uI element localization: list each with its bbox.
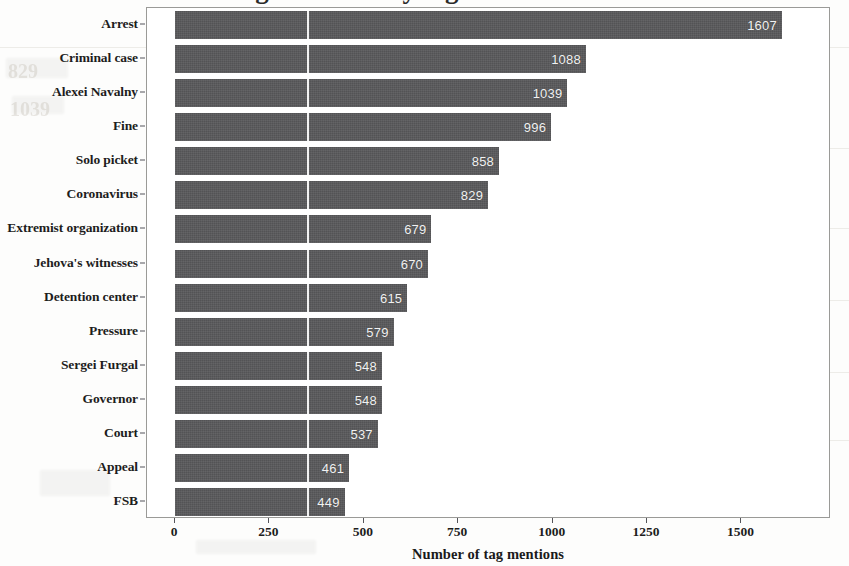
bar: 579 bbox=[175, 318, 394, 346]
y-axis-category-label: Sergei Furgal bbox=[61, 357, 138, 373]
y-axis-category-label: Fine bbox=[113, 118, 138, 134]
x-axis-tick bbox=[740, 518, 741, 523]
bar: 829 bbox=[175, 181, 488, 209]
y-axis-category-label: FSB bbox=[114, 493, 138, 509]
bar-value-label: 996 bbox=[524, 120, 546, 135]
y-axis-tick bbox=[140, 92, 145, 93]
y-axis-category-label: Court bbox=[104, 425, 138, 441]
bar-value-label: 579 bbox=[366, 324, 388, 339]
y-axis-category-label: Criminal case bbox=[59, 50, 138, 66]
bar: 615 bbox=[175, 284, 407, 312]
y-axis-tick bbox=[140, 194, 145, 195]
x-axis-tick-label: 500 bbox=[353, 524, 373, 540]
y-axis-tick bbox=[140, 228, 145, 229]
bar-value-label: 548 bbox=[355, 358, 377, 373]
bar-value-label: 858 bbox=[472, 154, 494, 169]
y-axis-tick bbox=[140, 160, 145, 161]
bar: 449 bbox=[175, 488, 345, 516]
bar-value-label: 449 bbox=[317, 494, 339, 509]
bar: 461 bbox=[175, 454, 349, 482]
x-axis-title: Number of tag mentions bbox=[146, 546, 830, 563]
figure-title-text: Number of tag mentions by tag bbox=[0, 0, 560, 5]
bar-value-label: 615 bbox=[380, 290, 402, 305]
bar-value-label: 548 bbox=[355, 392, 377, 407]
x-axis-tick-label: 1250 bbox=[633, 524, 660, 540]
y-axis-tick bbox=[140, 398, 145, 399]
bar-value-label: 1088 bbox=[551, 52, 581, 67]
bars-layer: 1607108810399968588296796706155795485485… bbox=[147, 8, 829, 517]
bar: 537 bbox=[175, 420, 378, 448]
y-axis-tick bbox=[140, 500, 145, 501]
y-axis-tick bbox=[140, 58, 145, 59]
bar: 1607 bbox=[175, 11, 782, 39]
x-axis-tick bbox=[174, 518, 175, 523]
bar-value-label: 461 bbox=[322, 460, 344, 475]
y-axis-tick bbox=[140, 262, 145, 263]
bar-value-label: 537 bbox=[350, 426, 372, 441]
y-axis-tick bbox=[140, 330, 145, 331]
y-axis-labels: ArrestCriminal caseAlexei NavalnyFineSol… bbox=[0, 7, 138, 518]
bar: 548 bbox=[175, 386, 382, 414]
y-axis-category-label: Appeal bbox=[97, 459, 138, 475]
y-axis-category-label: Alexei Navalny bbox=[52, 84, 138, 100]
x-axis-tick-label: 1000 bbox=[538, 524, 565, 540]
x-axis-tick-label: 750 bbox=[447, 524, 467, 540]
bar-value-label: 1039 bbox=[533, 86, 563, 101]
bar: 670 bbox=[175, 250, 428, 278]
x-axis-tick bbox=[646, 518, 647, 523]
y-axis-category-label: Pressure bbox=[89, 323, 138, 339]
bar: 996 bbox=[175, 113, 551, 141]
x-axis-tick-label: 250 bbox=[258, 524, 278, 540]
y-axis-tick bbox=[140, 466, 145, 467]
x-axis-tick bbox=[268, 518, 269, 523]
x-axis-tick-labels: 0250500750100012501500 bbox=[146, 524, 830, 544]
y-axis-tick bbox=[140, 126, 145, 127]
y-axis-category-label: Jehova's witnesses bbox=[34, 255, 138, 271]
y-axis-category-label: Governor bbox=[83, 391, 138, 407]
y-axis-category-label: Coronavirus bbox=[67, 186, 138, 202]
bar: 548 bbox=[175, 352, 382, 380]
x-axis-tick-label: 0 bbox=[171, 524, 178, 540]
y-axis-tick bbox=[140, 364, 145, 365]
bar: 1088 bbox=[175, 45, 586, 73]
y-axis-category-label: Extremist organization bbox=[7, 220, 138, 236]
x-axis-tick-label: 1500 bbox=[727, 524, 754, 540]
y-axis-tick bbox=[140, 296, 145, 297]
bar-value-label: 1607 bbox=[747, 18, 777, 33]
scanned-page: 829 1039 Number of tag mentions by tag A… bbox=[0, 0, 849, 566]
y-axis-category-label: Detention center bbox=[44, 289, 138, 305]
bar: 679 bbox=[175, 215, 431, 243]
y-axis-tick bbox=[140, 432, 145, 433]
plot-area: 1607108810399968588296796706155795485485… bbox=[146, 7, 830, 518]
bar-value-label: 670 bbox=[401, 256, 423, 271]
x-axis-tick bbox=[363, 518, 364, 523]
x-axis-tick bbox=[552, 518, 553, 523]
bar: 858 bbox=[175, 147, 499, 175]
y-axis-tick bbox=[140, 24, 145, 25]
bar: 1039 bbox=[175, 79, 567, 107]
bar-value-label: 679 bbox=[404, 222, 426, 237]
y-axis-category-label: Solo picket bbox=[76, 152, 138, 168]
x-axis-tick bbox=[457, 518, 458, 523]
y-axis-category-label: Arrest bbox=[101, 16, 138, 32]
bar-value-label: 829 bbox=[461, 188, 483, 203]
